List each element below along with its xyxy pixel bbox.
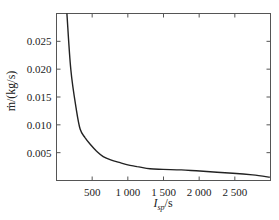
chart: 5001 0001 5002 0002 500 0.0050.0100.0150… <box>0 0 279 220</box>
data-series-line <box>67 14 270 178</box>
x-tick-label: 2 000 <box>187 186 212 198</box>
axis-ticks <box>57 14 271 181</box>
y-tick-label: 0.020 <box>27 63 52 75</box>
y-tick-label: 0.005 <box>27 147 52 159</box>
x-tick-label: 1 000 <box>115 186 140 198</box>
x-axis-label: Isp/s <box>152 196 172 212</box>
y-tick-label: 0.015 <box>27 91 52 103</box>
y-tick-labels: 0.0050.0100.0150.0200.025 <box>27 35 52 158</box>
x-tick-label: 2 500 <box>222 186 247 198</box>
plot-border <box>57 14 271 181</box>
y-tick-label: 0.025 <box>27 35 52 47</box>
y-axis-label: ṁ/(kg/s) <box>4 71 18 112</box>
x-tick-label: 500 <box>84 186 101 198</box>
plot-frame <box>57 14 271 181</box>
y-tick-label: 0.010 <box>27 119 52 131</box>
